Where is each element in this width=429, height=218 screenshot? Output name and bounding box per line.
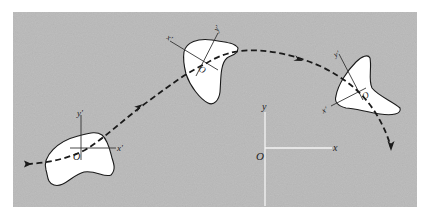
body-left-x-label: x' — [116, 143, 124, 153]
body-left-y-label: y' — [76, 108, 84, 118]
body-left-origin-label: O — [73, 151, 80, 162]
fixed-x-label: x — [332, 142, 338, 153]
fixed-origin-label: O — [256, 150, 264, 162]
fixed-y-label: y — [261, 101, 267, 112]
rigid-body-motion-diagram: y O x y' x' O x' y' O y' x' — [0, 0, 429, 218]
